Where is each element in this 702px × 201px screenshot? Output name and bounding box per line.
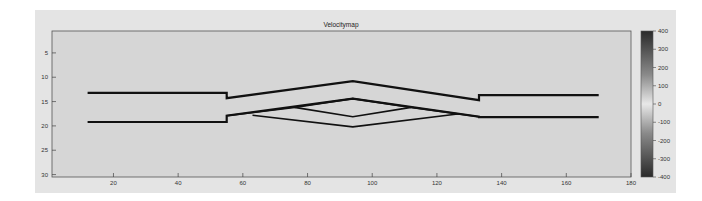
chart-title: Velocitymap	[323, 21, 358, 29]
x-tick-label: 100	[367, 180, 378, 186]
x-tick-label: 80	[304, 180, 311, 186]
x-tick-label: 140	[497, 180, 508, 186]
x-tick-label: 60	[239, 180, 246, 186]
x-tick-label: 180	[626, 180, 637, 186]
x-tick-label: 160	[561, 180, 572, 186]
y-tick-label: 15	[41, 99, 48, 105]
y-tick-label: 25	[41, 147, 48, 153]
x-tick-label: 40	[175, 180, 182, 186]
y-tick-label: 10	[41, 74, 48, 80]
y-tick-label: 5	[45, 50, 49, 56]
plot-area	[52, 31, 631, 177]
y-tick-label: 30	[41, 172, 48, 178]
colorbar-tick-label: 300	[658, 46, 669, 52]
colorbar-tick-label: -300	[658, 156, 671, 162]
colorbar-tick-label: -100	[658, 119, 671, 125]
colorbar	[641, 31, 653, 177]
colorbar-tick-label: 0	[658, 101, 662, 107]
colorbar-tick-label: -400	[658, 174, 671, 180]
x-tick-label: 120	[432, 180, 443, 186]
colorbar-tick-label: 200	[658, 65, 669, 71]
y-tick-label: 20	[41, 123, 48, 129]
colorbar-ticks: 4003002001000-100-200-300-400	[653, 28, 671, 180]
x-tick-label: 20	[110, 180, 117, 186]
colorbar-tick-label: 400	[658, 28, 669, 34]
velocity-map-chart: Velocitymap 20406080100120140160180 5101…	[0, 0, 702, 201]
colorbar-tick-label: 100	[658, 83, 669, 89]
colorbar-tick-label: -200	[658, 138, 671, 144]
